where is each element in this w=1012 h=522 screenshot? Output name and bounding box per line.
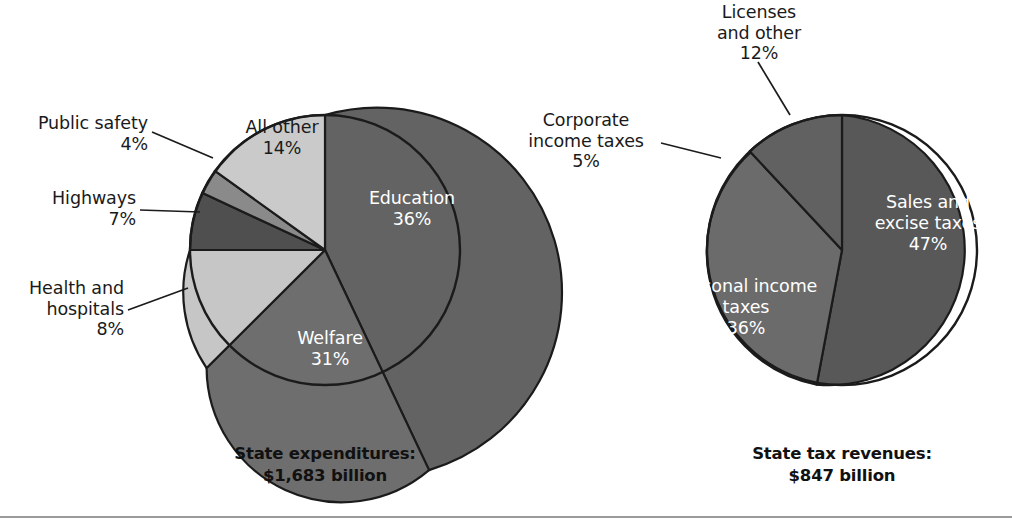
leader-line-licenses-and-other (758, 62, 790, 115)
leader-line-health-and-hospitals (128, 288, 188, 310)
caption-state-tax-revenues: State tax revenues: $847 billion (632, 443, 1012, 488)
callout-public-safety: Public safety 4% (0, 113, 148, 154)
slice-label-personal-income-taxes: Personal income taxes 36% (664, 276, 828, 339)
slice-label-sales-and-excise-taxes: Sales and excise taxes 47% (854, 192, 1002, 255)
slice-label-welfare: Welfare 31% (270, 328, 390, 370)
callout-highways: Highways 7% (0, 188, 136, 229)
callout-licenses-and-other: Licenses and other 12% (684, 2, 834, 64)
state-expenditures-chart: Education 36% Welfare 31% All other 14% … (0, 0, 506, 522)
slice-label-all-other: All other 14% (222, 117, 342, 159)
state-tax-revenues-chart: Sales and excise taxes 47% Personal inco… (506, 0, 1012, 522)
two-pie-chart-figure: Education 36% Welfare 31% All other 14% … (0, 0, 1012, 522)
slice-label-education: Education 36% (352, 188, 472, 230)
leader-line-public-safety (152, 132, 213, 158)
callout-health-and-hospitals: Health and hospitals 8% (0, 278, 124, 340)
callout-corporate-income-taxes: Corporate income taxes 5% (506, 110, 666, 172)
leader-line-corporate-income-taxes (661, 143, 721, 158)
caption-state-expenditures: State expenditures: $1,683 billion (115, 443, 535, 488)
bottom-divider (0, 516, 1012, 518)
leader-line-highways (140, 210, 200, 212)
